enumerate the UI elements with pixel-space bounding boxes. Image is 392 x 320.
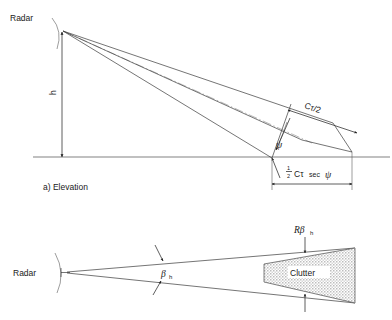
grazing-angle-label: ψ — [276, 139, 283, 150]
cross-range-label: Rβ h — [293, 225, 313, 236]
beamwidth-pointer-lower — [153, 281, 161, 295]
cross-range-symbol: Rβ — [293, 225, 305, 235]
beamwidth-symbol: β — [160, 269, 166, 279]
plan-view: Radar β h Rβ h Clutter — [13, 225, 355, 312]
beamwidth-subscript: h — [169, 274, 172, 280]
figure-canvas: Radar h Cτ/2 ψ 1 2 Cτ sec ψ a) Elevation — [0, 0, 392, 320]
clutter-label: Clutter — [290, 268, 315, 278]
footprint-sec-label: sec — [309, 171, 320, 178]
beam-lower-edge — [63, 31, 272, 158]
plan-antenna-arc-icon — [55, 253, 61, 293]
range-cell-dimension-line — [288, 110, 357, 133]
range-cell-near-ray — [63, 31, 302, 140]
footprint-length-label: 1 2 Cτ sec ψ — [286, 165, 332, 180]
beamwidth-label: β h — [160, 269, 172, 280]
grazing-angle-pointer-lower — [272, 158, 280, 178]
footprint-fraction-denominator: 2 — [287, 173, 290, 179]
footprint-angle-label: ψ — [325, 169, 332, 180]
antenna-arc-icon — [52, 18, 59, 49]
beam-upper-edge — [63, 31, 333, 123]
range-cell-label: Cτ/2 — [303, 100, 322, 115]
plan-radar-label: Radar — [13, 268, 36, 278]
radar-clutter-figure: Radar h Cτ/2 ψ 1 2 Cτ sec ψ a) Elevation — [0, 0, 392, 320]
elevation-caption: a) Elevation — [43, 182, 88, 192]
elevation-radar-label: Radar — [10, 13, 33, 23]
elevation-view: Radar h Cτ/2 ψ 1 2 Cτ sec ψ a) Elevation — [10, 13, 390, 192]
range-cell-far-face-upper — [333, 123, 352, 152]
height-label: h — [48, 90, 58, 95]
beamwidth-pointer-upper — [155, 245, 163, 261]
cross-range-subscript: h — [310, 230, 313, 236]
footprint-body-label: Cτ — [294, 169, 304, 179]
footprint-fraction-numerator: 1 — [287, 165, 290, 171]
range-cell-far-face-lower — [302, 140, 352, 152]
